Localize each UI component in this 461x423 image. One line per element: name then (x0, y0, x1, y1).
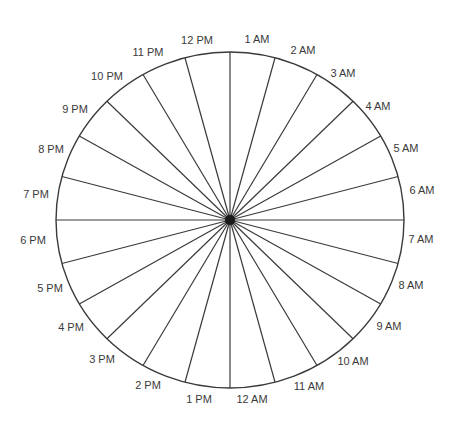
hour-label: 7 AM (408, 233, 433, 245)
hour-label: 7 PM (23, 188, 49, 200)
hour-label: 4 AM (365, 100, 390, 112)
clock-spoke (62, 177, 230, 220)
hour-label: 6 AM (409, 184, 434, 196)
clock-spoke (230, 75, 317, 220)
clock-spoke (230, 220, 275, 382)
hour-label: 12 PM (181, 34, 213, 46)
hour-label: 8 AM (398, 279, 423, 291)
hour-label: 9 AM (376, 320, 401, 332)
clock-spoke (230, 220, 381, 304)
hour-label: 2 PM (135, 379, 161, 391)
clock-spoke (230, 177, 398, 220)
hour-label: 5 AM (393, 142, 418, 154)
hour-label: 9 PM (62, 103, 88, 115)
hour-label: 8 PM (38, 143, 64, 155)
clock-spoke (185, 220, 230, 382)
hour-label: 6 PM (20, 234, 46, 246)
hour-label: 3 PM (89, 353, 115, 365)
hour-label: 2 AM (290, 44, 315, 56)
hour-label: 3 AM (330, 67, 355, 79)
clock-spoke (230, 220, 317, 365)
center-hub (225, 215, 235, 225)
clock-spoke (79, 220, 230, 304)
hour-label: 1 AM (244, 33, 269, 45)
hour-label: 11 AM (294, 380, 324, 392)
hour-label: 10 AM (337, 355, 368, 367)
clock-spoke (107, 101, 230, 220)
clock-spoke (185, 58, 230, 220)
clock-spoke (230, 220, 353, 339)
hour-label: 11 PM (133, 46, 164, 58)
clock-spoke (143, 220, 230, 365)
clock-spoke (62, 220, 230, 263)
clock-spoke (230, 220, 398, 263)
clock-spoke (230, 101, 353, 220)
clock-spoke (230, 58, 275, 220)
clock-spoke (107, 220, 230, 339)
clock-spoke (230, 136, 381, 220)
hour-label: 5 PM (37, 282, 63, 294)
hour-label: 4 PM (58, 321, 84, 333)
clock-diagram: 1 AM2 AM3 AM4 AM5 AM6 AM7 AM8 AM9 AM10 A… (0, 0, 461, 423)
clock-spoke (143, 75, 230, 220)
hour-label: 12 AM (236, 393, 267, 405)
hour-label: 1 PM (186, 393, 212, 405)
clock-spoke (79, 136, 230, 220)
hour-label: 10 PM (91, 70, 123, 82)
